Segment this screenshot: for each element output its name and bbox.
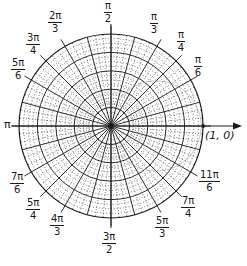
angle-denominator: 3	[52, 23, 58, 34]
radial-line	[22, 126, 111, 150]
angle-denominator: 2	[106, 244, 112, 255]
angle-denominator: 4	[185, 208, 191, 219]
angle-denominator: 6	[15, 70, 21, 81]
angle-numerator: π	[177, 30, 185, 42]
angle-numerator: 5π	[26, 198, 40, 210]
angle-numerator: 7π	[181, 196, 195, 208]
angle-numerator: 2π	[48, 11, 62, 23]
angle-numerator: 3π	[102, 232, 116, 244]
polar-grid-diagram: π2π3π4π62π33π45π67π65π44π33π25π37π411π6 …	[0, 0, 247, 266]
angle-label-4pi-3: 4π3	[50, 214, 64, 237]
radial-line	[111, 126, 200, 150]
angle-label-3pi-4: 3π4	[26, 33, 40, 56]
angle-numerator: 3π	[26, 33, 40, 45]
angle-denominator: 3	[54, 226, 60, 237]
angle-label-5pi-3: 5π3	[155, 216, 169, 239]
angle-label-5pi-6: 5π6	[11, 58, 25, 81]
angle-denominator: 4	[30, 45, 36, 56]
angle-label-3pi-2: 3π2	[102, 232, 116, 255]
angle-numerator: 4π	[50, 214, 64, 226]
angle-denominator: 6	[14, 184, 20, 195]
angle-label-11pi-6: 11π6	[199, 170, 220, 193]
angle-numerator: 7π	[10, 172, 24, 184]
radial-line	[87, 126, 111, 215]
angle-label-7pi-4: 7π4	[181, 196, 195, 219]
angle-denominator: 4	[30, 210, 36, 221]
angle-numerator: 11π	[199, 170, 220, 182]
angle-denominator: 3	[151, 24, 157, 35]
angle-label-7pi-6: 7π6	[10, 172, 24, 195]
angle-label-pi-6: π6	[194, 55, 202, 78]
angle-numerator: π	[194, 55, 202, 67]
angle-label-pi-2: π2	[104, 1, 112, 24]
angle-label-pi-3: π3	[150, 12, 158, 35]
angle-denominator: 4	[178, 42, 184, 53]
angle-label-pi: π	[4, 118, 11, 131]
angle-numerator: 5π	[11, 58, 25, 70]
angle-denominator: 3	[159, 228, 165, 239]
origin-dot	[109, 124, 113, 128]
angle-denominator: 6	[206, 182, 212, 193]
radial-line	[111, 126, 135, 215]
angle-denominator: 2	[105, 13, 111, 24]
radial-line	[111, 37, 135, 126]
radial-line	[22, 102, 111, 126]
angle-label-5pi-4: 5π4	[26, 198, 40, 221]
radial-line	[111, 102, 200, 126]
angle-numerator: π	[104, 1, 112, 13]
radial-line	[87, 37, 111, 126]
angle-denominator: 6	[195, 67, 201, 78]
angle-numerator: π	[150, 12, 158, 24]
point-label-1-0: (1, 0)	[205, 129, 235, 142]
angle-label-pi-4: π4	[177, 30, 185, 53]
angle-label-2pi-3: 2π3	[48, 11, 62, 34]
angle-numerator: 5π	[155, 216, 169, 228]
